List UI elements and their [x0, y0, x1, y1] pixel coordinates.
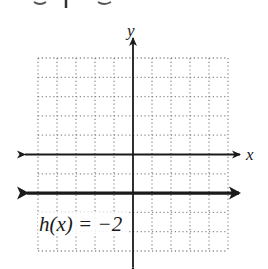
- coordinate-plane: y x h(x) = −2: [0, 0, 268, 269]
- y-axis-label: y: [125, 21, 135, 40]
- x-axis-label: x: [245, 145, 254, 164]
- cropped-text-fragments: [34, 0, 111, 8]
- function-label: h(x) = −2: [39, 212, 123, 236]
